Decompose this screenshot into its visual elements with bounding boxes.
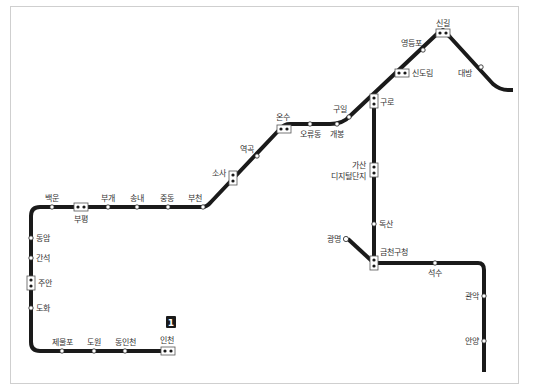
label-bucheon: 부천: [188, 193, 202, 203]
station-gwangmyeong[interactable]: [343, 236, 348, 241]
label-dongam: 동암: [36, 233, 51, 243]
station-baegun[interactable]: [50, 205, 54, 209]
label-doksan: 독산: [379, 219, 394, 229]
line-1-branch-track: [374, 102, 484, 372]
label-seoksu: 석수: [428, 268, 442, 278]
label-oryudong: 오류동: [300, 130, 321, 139]
label-bupyeong: 부평: [74, 214, 88, 224]
label-dongincheon: 동인천: [115, 337, 136, 347]
station-gasan-digital-complex[interactable]: [370, 163, 378, 177]
label-singil: 신길: [436, 19, 450, 28]
label-gwanak: 관악: [465, 291, 480, 301]
label-jungdong: 중동: [160, 194, 174, 203]
station-jungdong[interactable]: [166, 205, 170, 209]
label-juan: 주안: [38, 278, 53, 288]
station-yeongdeungpo[interactable]: [421, 48, 425, 52]
station-doksan[interactable]: [372, 222, 376, 226]
label-geumcheon-gu-office: 금천구청: [380, 247, 408, 257]
station-geumcheon-gu-office[interactable]: [370, 256, 378, 270]
station-dohwa[interactable]: [29, 306, 33, 310]
station-onsu[interactable]: [277, 125, 291, 133]
label-songnae: 송내: [130, 194, 144, 203]
line-number-badge: 1: [166, 316, 176, 328]
label-dowon: 도원: [87, 338, 101, 347]
station-jemulpo[interactable]: [60, 349, 64, 353]
label-jemulpo: 제물포: [52, 338, 73, 347]
label-guil: 구일: [333, 105, 347, 114]
station-gwanak[interactable]: [482, 294, 486, 298]
label-dohwa: 도화: [36, 304, 51, 313]
station-gaebong[interactable]: [335, 122, 339, 126]
station-incheon[interactable]: [161, 347, 175, 355]
station-yeokgok[interactable]: [255, 154, 259, 158]
station-songnae[interactable]: [135, 205, 139, 209]
label-gaebong: 개봉: [330, 129, 344, 139]
station-dongincheon[interactable]: [123, 349, 127, 353]
station-seoksu[interactable]: [433, 261, 437, 265]
station-dongam[interactable]: [29, 236, 33, 240]
svg-text:1: 1: [168, 318, 174, 328]
station-labels: 신길 영등포 신도림 대방 구로 구일 개봉 오류동 온수 역곡 소사 부천 중…: [36, 19, 480, 347]
station-anyang[interactable]: [482, 339, 486, 343]
station-guro[interactable]: [370, 94, 378, 108]
station-dowon[interactable]: [92, 349, 96, 353]
station-ganseok[interactable]: [29, 256, 33, 260]
label-daebang: 대방: [458, 68, 473, 78]
label-onsu: 온수: [276, 113, 290, 122]
label-bugae: 부개: [101, 193, 115, 203]
label-gwangmyeong: 광명: [327, 234, 341, 244]
regular-stations: [29, 48, 486, 353]
label-guro: 구로: [380, 98, 394, 107]
label-yeongdeungpo: 영등포: [401, 38, 422, 48]
station-juan[interactable]: [27, 276, 35, 290]
subway-line-1-map: 1 신길 영등포 신도림 대방 구로 구일 개봉 오류동 온수 역곡 소사 부천…: [0, 0, 537, 392]
label-sosa: 소사: [212, 169, 227, 178]
label-yeokgok: 역곡: [240, 144, 254, 154]
station-sosa[interactable]: [229, 171, 237, 185]
label-anyang: 안양: [465, 336, 480, 346]
station-daebang[interactable]: [479, 65, 483, 69]
station-bupyeong[interactable]: [74, 203, 88, 211]
station-guil[interactable]: [347, 115, 351, 119]
label-gasan-line1: 가산: [352, 160, 367, 170]
station-bugae[interactable]: [106, 205, 110, 209]
station-oryudong[interactable]: [308, 122, 312, 126]
station-singil[interactable]: [436, 29, 450, 37]
label-incheon: 인천: [160, 335, 174, 345]
label-sindorim: 신도림: [412, 68, 433, 78]
label-gasan-line2: 디지털단지: [331, 171, 366, 181]
label-ganseok: 간석: [36, 253, 50, 263]
label-baegun: 백운: [45, 193, 59, 203]
station-sindorim[interactable]: [395, 69, 409, 77]
line-1-main-track: [31, 30, 513, 351]
station-bucheon[interactable]: [201, 205, 205, 209]
